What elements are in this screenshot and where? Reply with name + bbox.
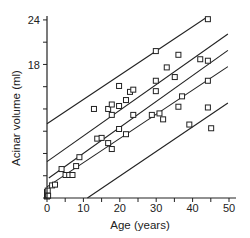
data-point-square: [117, 103, 122, 108]
data-point-square: [180, 94, 185, 99]
data-point-square: [205, 58, 210, 63]
lower-prediction-limit-line: [87, 103, 228, 198]
data-point-square: [59, 167, 64, 172]
data-point-square: [74, 164, 79, 169]
x-tick-label-10: 10: [77, 202, 89, 214]
data-point-square: [205, 78, 210, 83]
data-point-square: [109, 112, 114, 117]
regression-line-line: [49, 50, 228, 178]
upper-confidence-limit-line: [47, 34, 228, 162]
data-point-square: [106, 141, 111, 146]
data-point-square: [161, 117, 166, 122]
x-axis-label: Age (years): [110, 219, 170, 231]
data-point-square: [198, 57, 203, 62]
x-tick-label-20: 20: [114, 202, 126, 214]
y-tick-label-24: 24: [28, 14, 40, 26]
data-point-square: [117, 126, 122, 131]
data-point-square: [45, 188, 50, 193]
x-tick-label-50: 50: [223, 202, 235, 214]
data-point-square: [205, 17, 210, 22]
data-point-square: [153, 49, 158, 54]
data-point-square: [187, 122, 192, 127]
data-point-square: [176, 52, 181, 57]
data-point-square: [117, 83, 122, 88]
axes: 18 24 0 10 20 30 40 50 Age (years) Acina…: [10, 14, 236, 231]
data-point-square: [164, 65, 169, 70]
x-tick-label-40: 40: [186, 202, 198, 214]
x-tick-label-0: 0: [44, 202, 50, 214]
data-point-square: [131, 87, 136, 92]
y-tick-label-18: 18: [28, 59, 40, 71]
data-point-square: [149, 112, 154, 117]
data-point-square: [209, 126, 214, 131]
regression-lines: [47, 17, 228, 198]
data-point-square: [109, 102, 114, 107]
data-point-square: [53, 182, 58, 187]
x-ticks: [47, 198, 229, 202]
data-point-square: [157, 111, 162, 116]
scatter-chart: 18 24 0 10 20 30 40 50 Age (years) Acina…: [0, 0, 250, 238]
data-point-square: [153, 78, 158, 83]
data-point-square: [123, 132, 128, 137]
data-point-square: [172, 75, 177, 80]
data-point-square: [91, 106, 96, 111]
data-point-square: [70, 172, 75, 177]
data-point-square: [153, 89, 158, 94]
data-point-square: [131, 112, 136, 117]
upper-prediction-limit-line: [47, 17, 207, 124]
data-point-square: [176, 104, 181, 109]
data-point-square: [123, 98, 128, 103]
data-point-square: [99, 135, 104, 140]
data-point-square: [205, 105, 210, 110]
data-point-square: [77, 155, 82, 160]
data-point-square: [109, 147, 114, 152]
x-tick-label-30: 30: [150, 202, 162, 214]
y-axis-label: Acinar volume (ml): [10, 70, 22, 166]
